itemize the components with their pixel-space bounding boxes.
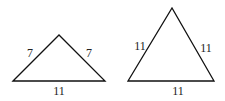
side-label-right: 11 xyxy=(200,41,212,55)
triangle-1: 7 7 11 xyxy=(13,35,105,98)
side-label-base: 11 xyxy=(53,84,65,98)
side-label-base: 11 xyxy=(172,84,184,98)
triangle-diagram: 7 7 11 11 11 11 xyxy=(0,0,225,101)
side-label-left: 7 xyxy=(27,46,33,60)
diagram-svg: 7 7 11 11 11 11 xyxy=(0,0,225,101)
triangle-2: 11 11 11 xyxy=(128,8,214,98)
side-label-left: 11 xyxy=(134,39,146,53)
side-label-right: 7 xyxy=(86,46,92,60)
